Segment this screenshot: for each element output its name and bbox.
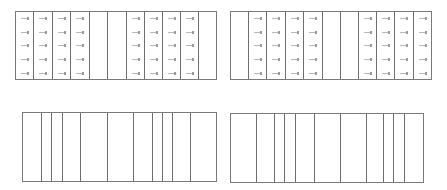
tick-mark [382, 32, 389, 33]
column-divider [62, 113, 63, 181]
column-divider [393, 114, 394, 182]
tick-mark [254, 59, 261, 60]
tick-mark [254, 45, 261, 46]
column-divider [303, 12, 304, 79]
column-divider [314, 114, 315, 182]
tick-mark [364, 18, 371, 19]
tick-mark [400, 73, 407, 74]
tick-mark [150, 45, 157, 46]
column-divider [295, 114, 296, 182]
column-divider [256, 114, 257, 182]
tick-mark [58, 18, 65, 19]
tick-mark [309, 18, 316, 19]
column-divider [413, 12, 414, 79]
tick-mark [272, 32, 279, 33]
column-divider [404, 114, 405, 182]
tick-mark [419, 45, 426, 46]
column-divider [285, 12, 286, 79]
column-divider [358, 12, 359, 79]
tick-mark [382, 73, 389, 74]
tick-mark [76, 32, 83, 33]
tick-mark [186, 73, 193, 74]
column-divider [383, 114, 384, 182]
column-divider [274, 114, 275, 182]
column-divider [248, 12, 249, 79]
tick-mark [291, 59, 298, 60]
column-divider [144, 12, 145, 79]
tick-mark [150, 32, 157, 33]
tick-mark [168, 45, 175, 46]
tick-mark [58, 32, 65, 33]
tick-mark [272, 45, 279, 46]
tick-mark [58, 73, 65, 74]
tick-mark [309, 59, 316, 60]
column-divider [126, 12, 127, 79]
tick-mark [39, 18, 46, 19]
tick-mark [254, 18, 261, 19]
column-divider [107, 12, 108, 79]
column-divider [322, 12, 323, 79]
column-divider [52, 12, 53, 79]
column-divider [41, 113, 42, 181]
tick-mark [76, 73, 83, 74]
column-divider [366, 114, 367, 182]
column-divider [180, 12, 181, 79]
tick-mark [76, 59, 83, 60]
tick-mark [76, 18, 83, 19]
tick-mark [364, 73, 371, 74]
column-divider [198, 12, 199, 79]
column-divider [394, 12, 395, 79]
column-divider [133, 113, 134, 181]
column-divider [340, 12, 341, 79]
tick-mark [21, 59, 28, 60]
tick-mark [21, 73, 28, 74]
tick-mark [132, 18, 139, 19]
tick-mark [254, 32, 261, 33]
column-divider [340, 114, 341, 182]
tick-mark [291, 45, 298, 46]
panel-bottom-left [22, 112, 217, 182]
tick-mark [39, 32, 46, 33]
panel-top-left [15, 11, 217, 80]
tick-mark [39, 73, 46, 74]
tick-mark [364, 45, 371, 46]
tick-mark [132, 32, 139, 33]
column-divider [107, 113, 108, 181]
tick-mark [186, 59, 193, 60]
tick-mark [132, 73, 139, 74]
tick-mark [272, 73, 279, 74]
panel-bottom-right [230, 113, 424, 183]
column-divider [51, 113, 52, 181]
tick-mark [272, 18, 279, 19]
tick-mark [309, 73, 316, 74]
tick-mark [168, 32, 175, 33]
column-divider [89, 12, 90, 79]
panel-top-right [230, 11, 432, 80]
tick-mark [186, 45, 193, 46]
tick-mark [291, 18, 298, 19]
tick-mark [58, 45, 65, 46]
tick-mark [400, 32, 407, 33]
tick-mark [168, 18, 175, 19]
tick-mark [76, 45, 83, 46]
tick-mark [291, 32, 298, 33]
column-divider [80, 113, 81, 181]
tick-mark [419, 59, 426, 60]
tick-mark [39, 59, 46, 60]
tick-mark [168, 73, 175, 74]
column-divider [284, 114, 285, 182]
tick-mark [150, 18, 157, 19]
tick-mark [168, 59, 175, 60]
tick-mark [150, 59, 157, 60]
column-divider [152, 113, 153, 181]
column-divider [376, 12, 377, 79]
tick-mark [186, 32, 193, 33]
column-divider [190, 113, 191, 181]
tick-mark [309, 32, 316, 33]
column-divider [162, 12, 163, 79]
column-divider [172, 113, 173, 181]
tick-mark [419, 32, 426, 33]
tick-mark [132, 45, 139, 46]
column-divider [33, 12, 34, 79]
tick-mark [150, 73, 157, 74]
